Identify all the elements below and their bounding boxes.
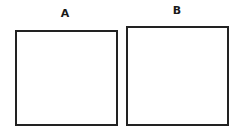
- label-a: A: [55, 7, 75, 20]
- square-a: [15, 30, 118, 126]
- label-b: B: [167, 4, 187, 17]
- square-b: [126, 26, 229, 126]
